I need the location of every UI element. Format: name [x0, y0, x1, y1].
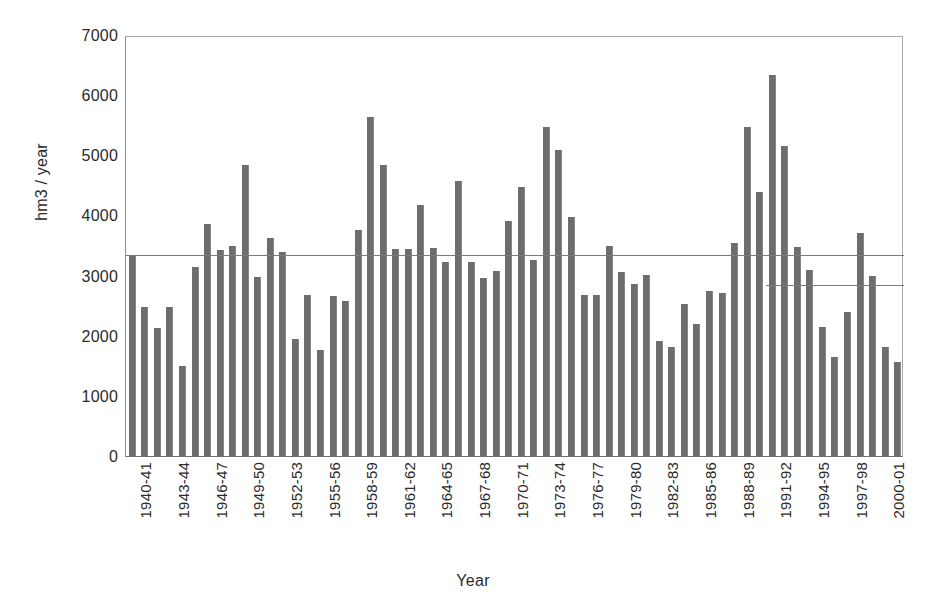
y-axis-tick-labels: 01000200030004000500060007000: [40, 36, 118, 457]
x-axis-tick-1952-53: 1952-53: [288, 462, 305, 518]
x-axis-tick-1943-44: 1943-44: [175, 462, 192, 518]
bar: [129, 255, 136, 456]
bar: [643, 275, 650, 456]
bar: [543, 127, 550, 456]
bar: [568, 217, 575, 456]
bar: [342, 301, 349, 456]
bar: [355, 230, 362, 456]
x-axis-tick-1961-62: 1961-62: [401, 462, 418, 518]
y-axis-tick-6000: 6000: [40, 87, 118, 105]
bar: [656, 341, 663, 456]
x-axis-tick-1997-98: 1997-98: [853, 462, 870, 518]
x-axis-tick-1976-77: 1976-77: [589, 462, 606, 518]
bar: [493, 271, 500, 456]
y-axis-tick-7000: 7000: [40, 27, 118, 45]
bar: [317, 350, 324, 456]
x-axis-tick-2000-01: 2000-01: [890, 462, 907, 518]
x-axis-tick-1979-80: 1979-80: [627, 462, 644, 518]
bar: [330, 296, 337, 456]
x-axis-tick-1985-86: 1985-86: [702, 462, 719, 518]
x-axis-tick-1970-71: 1970-71: [514, 462, 531, 518]
x-axis-tick-1973-74: 1973-74: [551, 462, 568, 518]
x-axis-tick-1988-89: 1988-89: [740, 462, 757, 518]
bar: [719, 293, 726, 456]
bar: [706, 291, 713, 456]
y-axis-tick-3000: 3000: [40, 268, 118, 286]
bar: [392, 249, 399, 456]
bar: [242, 165, 249, 456]
bar: [631, 284, 638, 456]
y-axis-tick-4000: 4000: [40, 207, 118, 225]
bar: [794, 247, 801, 456]
bar: [593, 295, 600, 456]
y-axis-tick-1000: 1000: [40, 388, 118, 406]
bar: [204, 224, 211, 456]
bar: [505, 221, 512, 456]
bar: [518, 187, 525, 456]
bar: [606, 246, 613, 457]
bar: [806, 270, 813, 456]
bar: [292, 339, 299, 456]
reference-line-long-term-mean: [126, 255, 904, 256]
bar: [781, 146, 788, 456]
bar: [744, 127, 751, 456]
bar: [581, 295, 588, 456]
bar: [681, 304, 688, 456]
bar: [154, 328, 161, 456]
bar: [141, 307, 148, 456]
bar: [430, 248, 437, 456]
bar: [367, 117, 374, 456]
x-axis-tick-1994-95: 1994-95: [815, 462, 832, 518]
bar: [857, 233, 864, 456]
bar: [179, 366, 186, 456]
x-axis-tick-1940-41: 1940-41: [137, 462, 154, 518]
bar: [769, 75, 776, 456]
plot-area: [125, 36, 903, 457]
bar: [756, 192, 763, 456]
x-axis-tick-1982-83: 1982-83: [664, 462, 681, 518]
bar: [555, 150, 562, 456]
bar: [668, 347, 675, 456]
y-axis-tick-5000: 5000: [40, 147, 118, 165]
x-axis-tick-1958-59: 1958-59: [363, 462, 380, 518]
bar: [229, 246, 236, 457]
bar: [166, 307, 173, 456]
x-axis-tick-1964-65: 1964-65: [438, 462, 455, 518]
bar: [693, 324, 700, 456]
bar: [417, 205, 424, 456]
bar: [844, 312, 851, 456]
x-axis-label: Year: [0, 572, 946, 590]
x-axis-tick-1967-68: 1967-68: [476, 462, 493, 518]
x-axis-tick-1991-92: 1991-92: [777, 462, 794, 518]
bar: [468, 262, 475, 456]
bar: [405, 249, 412, 456]
y-axis-tick-2000: 2000: [40, 328, 118, 346]
bar: [882, 347, 889, 456]
bar-series: [126, 37, 902, 456]
bar: [279, 252, 286, 456]
bar: [831, 357, 838, 456]
bar: [530, 260, 537, 456]
bar: [380, 165, 387, 456]
bar: [455, 181, 462, 456]
bar: [894, 362, 901, 456]
y-axis-tick-0: 0: [40, 448, 118, 466]
bar: [304, 295, 311, 456]
bar: [618, 272, 625, 456]
x-axis-tick-1949-50: 1949-50: [250, 462, 267, 518]
bar: [819, 327, 826, 456]
x-axis-tick-1946-47: 1946-47: [213, 462, 230, 518]
bar: [731, 243, 738, 456]
x-axis-tick-labels: 1940-411943-441946-471949-501952-531955-…: [125, 462, 903, 562]
bar: [442, 262, 449, 456]
bar: [869, 276, 876, 456]
bar: [267, 238, 274, 456]
x-axis-tick-1955-56: 1955-56: [326, 462, 343, 518]
bar-chart-figure: hm3 / year 01000200030004000500060007000…: [0, 0, 946, 613]
bar: [217, 250, 224, 456]
reference-line-recent-period-mean: [766, 285, 904, 286]
bar: [480, 278, 487, 456]
bar: [192, 267, 199, 456]
bar: [254, 277, 261, 456]
